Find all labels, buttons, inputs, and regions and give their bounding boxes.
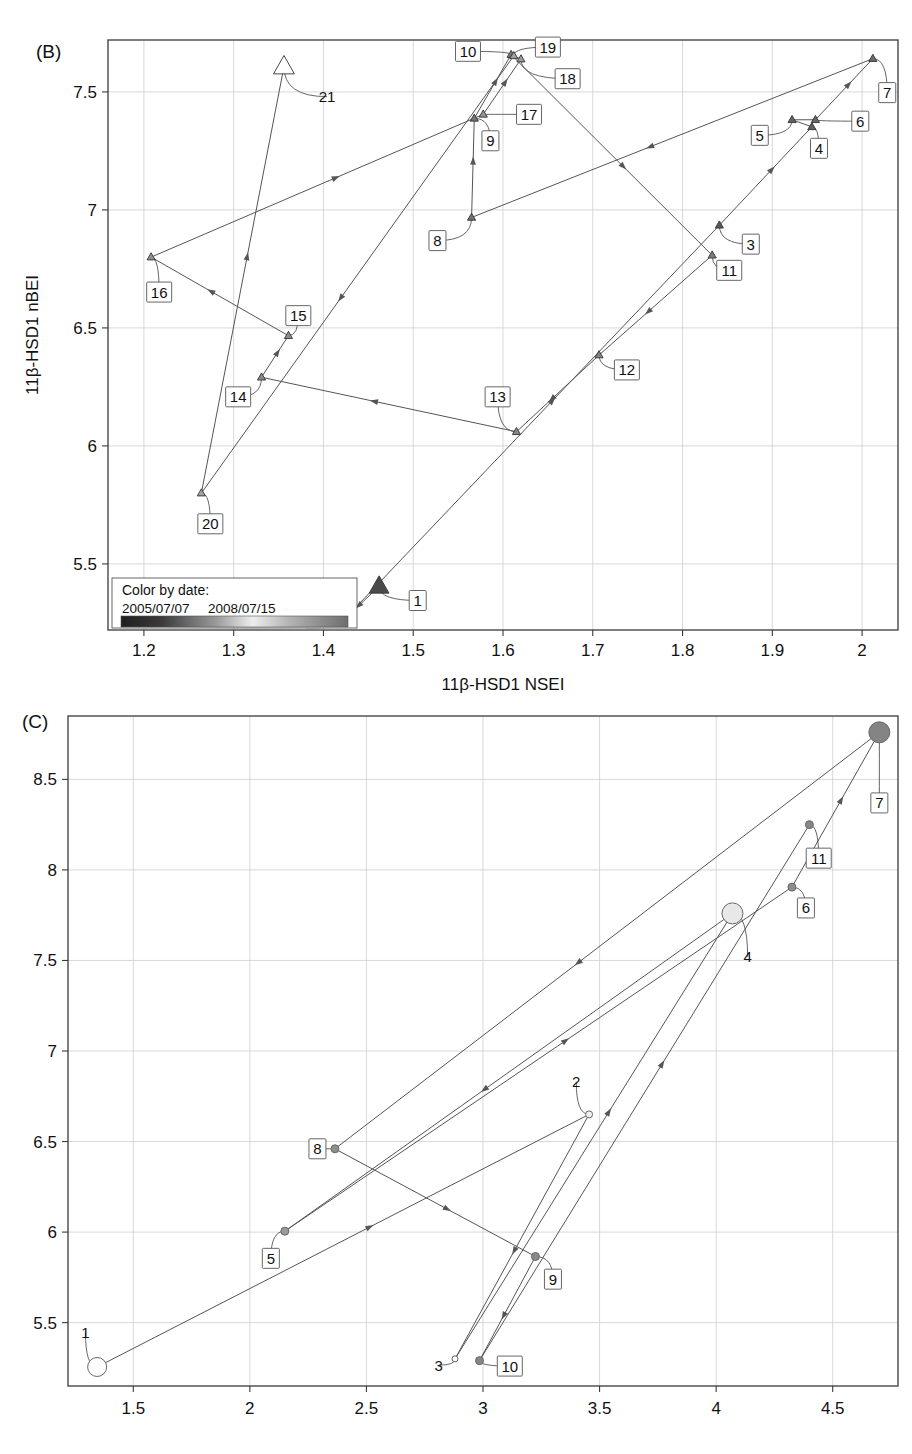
y-tick-label: 7.5 (73, 83, 97, 102)
y-tick-label: 7 (48, 1042, 57, 1061)
point-label: 19 (540, 39, 557, 56)
point-label: 10 (501, 1358, 518, 1375)
panel-c-gridlines (68, 716, 898, 1386)
point-label: 16 (151, 284, 168, 301)
point-label: 17 (521, 106, 538, 123)
point-label: 6 (802, 899, 810, 916)
data-point-marker (476, 1357, 484, 1365)
data-point-marker (452, 1356, 458, 1362)
y-tick-label: 6 (48, 1223, 57, 1242)
x-tick-label: 1.5 (121, 1399, 145, 1418)
point-label: 11 (811, 850, 827, 867)
y-tick-label: 7 (88, 201, 97, 220)
data-point-marker (281, 1227, 289, 1235)
panel-b-x-axis-title: 11β-HSD1 NSEI (442, 675, 565, 694)
data-point-marker (722, 903, 743, 924)
point-label: 4 (743, 948, 751, 965)
y-tick-label: 5.5 (33, 1314, 57, 1333)
x-tick-label: 4.5 (821, 1399, 845, 1418)
data-point-marker (88, 1357, 107, 1376)
data-point-marker (257, 373, 265, 380)
panel-b-label-leaders (151, 47, 887, 619)
x-tick-label: 4 (711, 1399, 720, 1418)
y-tick-label: 5.5 (73, 555, 97, 574)
y-tick-label: 8.5 (33, 770, 57, 789)
x-tick-label: 3 (478, 1399, 487, 1418)
panel-b-y-tick-labels: 5.566.577.5 (73, 83, 97, 574)
point-label: 10 (460, 43, 477, 60)
point-label: 1 (414, 592, 422, 609)
point-label: 13 (489, 388, 506, 405)
point-label: 12 (619, 361, 636, 378)
x-tick-label: 2.5 (355, 1399, 379, 1418)
data-point-marker (331, 1145, 339, 1153)
data-point-marker (274, 56, 295, 74)
point-label: 7 (883, 84, 891, 101)
y-tick-label: 6 (88, 437, 97, 456)
panel-c-markers (88, 722, 890, 1377)
panel-c-trajectory (97, 732, 879, 1367)
data-point-marker (479, 110, 487, 117)
figure-container: 1.21.31.41.51.61.71.81.92 5.566.577.5 12… (0, 0, 912, 1454)
x-tick-label: 1.3 (222, 641, 246, 660)
point-label: 5 (267, 1250, 275, 1267)
color-by-date-legend: Color by date: 2005/07/07 2008/07/15 (112, 578, 357, 628)
data-point-marker (788, 115, 796, 122)
data-point-marker (805, 821, 813, 829)
panel-b-point-labels: 123456789101112131415161718192021 (147, 37, 896, 628)
x-tick-label: 1.6 (491, 641, 515, 660)
x-tick-label: 1.4 (312, 641, 336, 660)
x-tick-label: 2 (857, 641, 866, 660)
data-point-marker (531, 1253, 539, 1261)
point-label: 14 (230, 388, 247, 405)
x-tick-label: 1.2 (132, 641, 156, 660)
point-label: 9 (486, 132, 494, 149)
x-tick-label: 1.5 (401, 641, 425, 660)
point-label: 1 (81, 1324, 89, 1341)
panel-c: 1.522.533.544.5 5.566.577.588.5 12345678… (0, 700, 912, 1454)
x-tick-label: 2 (245, 1399, 254, 1418)
panel-c-label-leaders (85, 732, 879, 1367)
point-label: 2 (572, 1073, 580, 1090)
data-point-marker (869, 722, 890, 743)
panel-c-arrowheads (365, 796, 843, 1319)
panel-b-tickmarks (102, 92, 862, 636)
point-label: 3 (435, 1357, 443, 1374)
x-tick-label: 1.8 (671, 641, 695, 660)
point-label: 8 (433, 232, 441, 249)
panel-c-point-labels: 1234567891011 (81, 793, 888, 1376)
point-label: 20 (202, 515, 219, 532)
data-point-marker (869, 54, 877, 61)
point-label: 6 (856, 113, 864, 130)
point-label: 9 (549, 1271, 557, 1288)
data-point-marker (788, 883, 796, 891)
x-tick-label: 1.7 (581, 641, 605, 660)
data-point-marker (586, 1111, 593, 1118)
point-label: 5 (756, 127, 764, 144)
panel-b-arrowheads (207, 78, 851, 609)
legend-start-date: 2005/07/07 (122, 601, 190, 616)
panel-b-x-tick-labels: 1.21.31.41.51.61.71.81.92 (132, 641, 867, 660)
legend-end-date: 2008/07/15 (208, 601, 276, 616)
point-label: 11 (721, 262, 737, 279)
panel-c-letter: (C) (22, 711, 48, 732)
y-tick-label: 6.5 (73, 319, 97, 338)
panel-b-svg: 1.21.31.41.51.61.71.81.92 5.566.577.5 12… (0, 0, 912, 700)
point-label: 18 (559, 70, 576, 87)
y-tick-label: 8 (48, 861, 57, 880)
panel-b: 1.21.31.41.51.61.71.81.92 5.566.577.5 12… (0, 0, 912, 700)
panel-b-gridlines (108, 40, 898, 630)
panel-c-tickmarks (62, 779, 833, 1392)
point-label: 15 (290, 307, 307, 324)
point-label: 3 (747, 236, 755, 253)
panel-c-x-tick-labels: 1.522.533.544.5 (121, 1399, 844, 1418)
date-color-bar (121, 616, 348, 627)
point-label: 7 (875, 794, 883, 811)
point-label: 8 (313, 1140, 321, 1157)
x-tick-label: 1.9 (760, 641, 784, 660)
panel-c-svg: 1.522.533.544.5 5.566.577.588.5 12345678… (0, 700, 912, 1454)
point-label: 4 (815, 140, 823, 157)
panel-c-y-tick-labels: 5.566.577.588.5 (33, 770, 57, 1332)
data-point-marker (369, 576, 389, 593)
x-tick-label: 3.5 (588, 1399, 612, 1418)
